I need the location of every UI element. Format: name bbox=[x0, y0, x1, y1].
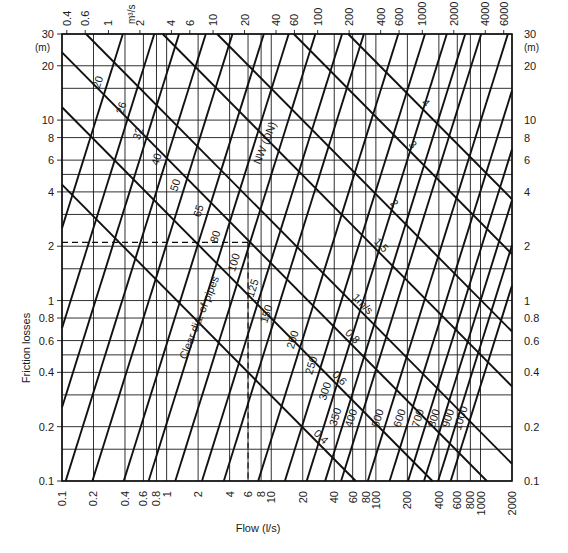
line-labels: 2026324050658010012515020025030035040050… bbox=[90, 74, 470, 446]
pipe-line-dn40 bbox=[66, 34, 206, 481]
y-tick-label-right: 0.1 bbox=[524, 475, 539, 487]
x-tick-label-bottom: 20 bbox=[297, 491, 309, 503]
x-tick-label-top: 100 bbox=[312, 8, 324, 26]
y-tick-label-right: 4 bbox=[524, 186, 530, 198]
pipe-label-dn80: 80 bbox=[207, 229, 222, 244]
x-tick-label-top: 600 bbox=[393, 8, 405, 26]
y-tick-label-right: 2 bbox=[524, 240, 530, 252]
x-tick-label-top: 40 bbox=[270, 14, 282, 26]
y-tick-label-left: 20 bbox=[42, 60, 54, 72]
x-tick-label-top: 1000 bbox=[416, 2, 428, 26]
pipe-label-dn65: 65 bbox=[191, 203, 206, 218]
x-axis-title: Flow (l/s) bbox=[236, 522, 281, 534]
clear-dia-label: Clear dia. of pipes bbox=[177, 274, 222, 361]
y-tick-label-left: 0.4 bbox=[39, 366, 54, 378]
y-axis-title: Friction losses bbox=[20, 312, 32, 383]
top-axis-unit: m³/s bbox=[126, 5, 137, 24]
y-tick-label-left: 0.8 bbox=[39, 312, 54, 324]
y-tick-label-right: 6 bbox=[524, 154, 530, 166]
pipe-label-dn26: 26 bbox=[113, 100, 128, 115]
y-tick-label-right: 0.6 bbox=[524, 335, 539, 347]
pipe-line-dn20 bbox=[62, 34, 123, 228]
x-tick-label-top: 200 bbox=[343, 8, 355, 26]
x-tick-label-top: 1 bbox=[102, 20, 114, 26]
y-tick-label-left: 8 bbox=[48, 132, 54, 144]
friction-loss-chart: 0.10.20.40.60.81246810204060801002004006… bbox=[0, 0, 568, 553]
x-tick-label-bottom: 2000 bbox=[506, 491, 518, 515]
y-tick-label-right: 1 bbox=[524, 295, 530, 307]
pipe-label-dn400: 400 bbox=[342, 407, 359, 428]
y-tick-label-right: 30 bbox=[524, 28, 536, 40]
y-tick-label-right: 0.4 bbox=[524, 366, 539, 378]
pipe-line-dn125 bbox=[202, 34, 342, 481]
pipe-label-dn500: 500 bbox=[369, 407, 386, 428]
y-tick-label-left: 2 bbox=[48, 240, 54, 252]
y-tick-label-right: 0.8 bbox=[524, 312, 539, 324]
x-tick-label-bottom: 10 bbox=[265, 491, 277, 503]
y-unit-left: (m) bbox=[35, 42, 50, 53]
x-tick-label-bottom: 1 bbox=[161, 491, 173, 497]
pipe-label-dn600: 600 bbox=[391, 407, 408, 428]
pipe-line-dn32 bbox=[62, 34, 179, 408]
y-tick-label-left: 10 bbox=[42, 114, 54, 126]
x-tick-label-top: 20 bbox=[239, 14, 251, 26]
y-tick-label-right: 0.2 bbox=[524, 421, 539, 433]
y-tick-label-left: 0.6 bbox=[39, 335, 54, 347]
y-tick-label-left: 0.2 bbox=[39, 421, 54, 433]
x-tick-label-bottom: 400 bbox=[433, 491, 445, 509]
pipe-label-dn50: 50 bbox=[167, 177, 182, 192]
y-tick-label-left: 4 bbox=[48, 186, 54, 198]
velocity-label-0.4: 0.4 bbox=[312, 427, 331, 446]
x-tick-label-bottom: 60 bbox=[347, 491, 359, 503]
velocity-label-1.5: 1.5 bbox=[372, 235, 391, 254]
x-tick-label-top: 4 bbox=[165, 20, 177, 26]
x-tick-label-bottom: 0.4 bbox=[119, 491, 131, 506]
pipe-label-dn125: 125 bbox=[244, 277, 261, 298]
y-tick-label-left: 0.1 bbox=[39, 475, 54, 487]
x-tick-label-bottom: 0.6 bbox=[137, 491, 149, 506]
y-tick-label-left: 30 bbox=[42, 28, 54, 40]
x-tick-label-bottom: 200 bbox=[401, 491, 413, 509]
velocity-label-0.8: 0.8 bbox=[343, 326, 362, 345]
x-tick-label-top: 0.6 bbox=[79, 11, 91, 26]
x-tick-label-top: 60 bbox=[288, 14, 300, 26]
pipe-label-dn100: 100 bbox=[225, 252, 242, 273]
x-tick-label-top: 2000 bbox=[448, 2, 460, 26]
x-tick-label-bottom: 40 bbox=[328, 491, 340, 503]
x-tick-label-bottom: 1000 bbox=[475, 491, 487, 515]
x-tick-label-top: 6000 bbox=[498, 2, 510, 26]
x-tick-label-top: 0.4 bbox=[61, 11, 73, 26]
x-tick-label-bottom: 0.1 bbox=[56, 491, 68, 506]
pipe-label-dn20: 20 bbox=[90, 74, 105, 89]
x-tick-label-bottom: 600 bbox=[451, 491, 463, 509]
pipe-line-dn65 bbox=[124, 34, 264, 481]
y-tick-label-left: 1 bbox=[48, 295, 54, 307]
y-tick-label-right: 8 bbox=[524, 132, 530, 144]
x-tick-label-bottom: 0.2 bbox=[87, 491, 99, 506]
y-tick-label-left: 6 bbox=[48, 154, 54, 166]
x-tick-label-bottom: 100 bbox=[370, 491, 382, 509]
y-tick-label-right: 20 bbox=[524, 60, 536, 72]
x-tick-label-top: 6 bbox=[184, 20, 196, 26]
x-tick-label-top: 400 bbox=[375, 8, 387, 26]
pipe-label-dn300: 300 bbox=[316, 380, 333, 401]
x-tick-label-bottom: 6 bbox=[242, 491, 254, 497]
x-tick-label-top: 10 bbox=[207, 14, 219, 26]
x-tick-label-bottom: 4 bbox=[224, 491, 236, 497]
pipe-line-dn900 bbox=[438, 245, 512, 481]
x-tick-label-top: 4000 bbox=[479, 2, 491, 26]
pipe-line-dn80 bbox=[149, 34, 289, 481]
y-unit-right: (m) bbox=[524, 42, 539, 53]
x-tick-label-bottom: 2 bbox=[192, 491, 204, 497]
y-tick-label-right: 10 bbox=[524, 114, 536, 126]
